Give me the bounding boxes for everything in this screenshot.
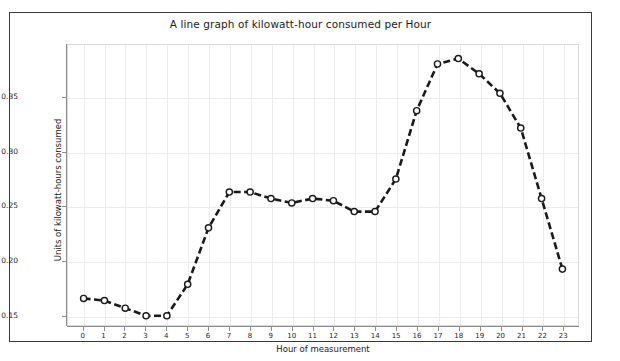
x-tick-mark [271,327,272,331]
data-point-marker [122,305,128,311]
x-tick-mark [563,327,564,331]
data-point-marker [414,108,420,114]
data-point-marker [289,200,295,206]
data-point-marker [351,209,357,215]
data-point-marker [101,298,107,304]
y-tick-label: 0.25 [1,201,18,210]
data-point-marker [393,176,399,182]
x-tick-label: 18 [449,332,469,340]
x-axis-title: Hour of measurement [67,344,579,354]
data-point-marker [497,90,503,96]
x-tick-label: 10 [282,332,302,340]
x-axis-line [67,326,579,327]
x-tick-mark [313,327,314,331]
x-tick-mark [229,327,230,331]
x-tick-label: 3 [135,332,155,340]
data-point-marker [247,189,253,195]
data-point-marker [476,71,482,77]
figure-frame: A line graph of kilowatt-hour consumed p… [9,12,592,342]
x-tick-label: 11 [303,332,323,340]
x-tick-label: 19 [470,332,490,340]
x-tick-label: 7 [219,332,239,340]
y-tick-label: 0.35 [1,92,18,101]
data-point-marker [330,198,336,204]
x-tick-label: 13 [344,332,364,340]
x-tick-label: 9 [261,332,281,340]
y-tick-label: 0.15 [1,311,18,320]
x-tick-label: 2 [114,332,134,340]
data-point-marker [81,295,87,301]
x-tick-mark [145,327,146,331]
x-tick-mark [292,327,293,331]
x-tick-mark [480,327,481,331]
data-point-marker [559,266,565,272]
plot-area [67,44,579,326]
x-tick-label: 22 [532,332,552,340]
x-tick-label: 14 [365,332,385,340]
data-point-marker [538,195,544,201]
x-tick-label: 0 [73,332,93,340]
x-tick-mark [417,327,418,331]
x-tick-mark [522,327,523,331]
data-point-marker [310,195,316,201]
x-tick-label: 4 [156,332,176,340]
x-tick-label: 8 [240,332,260,340]
y-axis-title: Units of kilowatt-hours consumed [53,49,63,331]
x-tick-label: 21 [512,332,532,340]
data-point-marker [143,313,149,319]
x-tick-mark [250,327,251,331]
x-tick-mark [333,327,334,331]
data-line [84,59,563,316]
data-point-marker [268,195,274,201]
x-tick-mark [124,327,125,331]
x-tick-mark [187,327,188,331]
x-tick-mark [375,327,376,331]
data-point-marker [372,209,378,215]
x-tick-mark [501,327,502,331]
x-tick-mark [104,327,105,331]
chart-title: A line graph of kilowatt-hour consumed p… [10,18,591,30]
x-tick-mark [459,327,460,331]
x-tick-mark [208,327,209,331]
x-tick-mark [83,327,84,331]
data-point-marker [226,189,232,195]
data-point-marker [518,125,524,131]
x-tick-label: 23 [553,332,573,340]
x-tick-label: 20 [491,332,511,340]
data-point-marker [434,61,440,67]
data-point-marker [205,225,211,231]
y-tick-label: 0.30 [1,147,18,156]
x-tick-label: 12 [323,332,343,340]
line-series-svg [68,45,578,325]
x-tick-mark [438,327,439,331]
y-tick-label: 0.20 [1,256,18,265]
x-tick-mark [166,327,167,331]
x-tick-mark [354,327,355,331]
y-axis-line [66,44,67,326]
x-tick-label: 17 [428,332,448,340]
x-tick-mark [542,327,543,331]
data-point-marker [185,281,191,287]
x-tick-label: 6 [198,332,218,340]
x-tick-label: 16 [407,332,427,340]
data-point-marker [164,313,170,319]
x-tick-mark [396,327,397,331]
x-tick-label: 1 [94,332,114,340]
x-tick-label: 5 [177,332,197,340]
x-tick-label: 15 [386,332,406,340]
data-point-marker [455,55,461,61]
